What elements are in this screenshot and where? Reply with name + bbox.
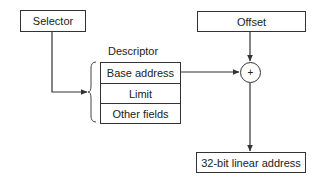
descriptor-field-base-address: Base address <box>101 63 180 83</box>
linear-address-box: 32-bit linear address <box>196 152 306 173</box>
selector-to-descriptor-arrow <box>52 32 87 92</box>
field-label: Base address <box>107 67 174 79</box>
descriptor-field-other: Other fields <box>101 103 180 123</box>
descriptor-table: Base address Limit Other fields <box>100 62 181 124</box>
field-label: Limit <box>129 88 152 100</box>
descriptor-field-limit: Limit <box>101 83 180 103</box>
plus-icon: + <box>248 68 254 78</box>
adder-circle: + <box>240 62 261 83</box>
selector-box: Selector <box>20 10 86 32</box>
selector-label: Selector <box>33 15 73 27</box>
linear-address-label: 32-bit linear address <box>201 157 301 169</box>
offset-label: Offset <box>237 16 266 28</box>
descriptor-brace <box>88 62 96 122</box>
descriptor-title: Descriptor <box>108 45 158 57</box>
offset-box: Offset <box>197 11 306 32</box>
field-label: Other fields <box>112 108 168 120</box>
